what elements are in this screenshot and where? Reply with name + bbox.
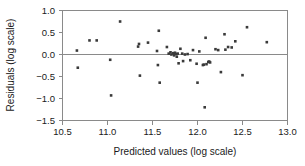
- data-point: [203, 106, 206, 109]
- data-point: [214, 48, 217, 51]
- data-point: [181, 52, 184, 55]
- data-point: [157, 64, 160, 67]
- chart-canvas: 10.5 11.0 11.5 12.0 12.5 13.0 1.0 0.5 0.…: [0, 0, 305, 166]
- data-point: [198, 50, 201, 53]
- data-point: [184, 53, 187, 56]
- x-tick-label: 10.5: [53, 126, 72, 137]
- x-tick-label: 11.5: [144, 126, 162, 137]
- data-point: [88, 39, 91, 42]
- y-tick-label: −1.0: [36, 93, 55, 104]
- x-tick-label: 11.0: [99, 126, 117, 137]
- data-point: [234, 40, 237, 43]
- y-tick-label: −0.5: [36, 71, 55, 82]
- data-point: [204, 36, 207, 39]
- data-point: [139, 74, 142, 77]
- scatter-plot-figure: 10.5 11.0 11.5 12.0 12.5 13.0 1.0 0.5 0.…: [0, 0, 305, 166]
- data-point: [77, 66, 80, 69]
- y-tick-label: 0.5: [42, 27, 55, 38]
- x-tick-label: 12.5: [233, 126, 252, 137]
- data-point: [224, 48, 227, 51]
- data-point: [266, 41, 269, 44]
- x-tick-label: 13.0: [278, 126, 297, 137]
- data-point: [241, 74, 244, 77]
- data-point: [246, 26, 249, 29]
- data-point: [176, 52, 179, 55]
- data-point: [195, 62, 198, 65]
- data-point: [203, 63, 206, 66]
- data-point: [147, 41, 150, 44]
- data-point: [76, 49, 79, 52]
- y-tick-label: 0.0: [42, 49, 55, 60]
- data-point: [209, 61, 212, 64]
- data-point: [156, 50, 159, 53]
- data-point: [189, 59, 192, 62]
- data-point: [158, 81, 161, 84]
- data-point: [217, 49, 220, 52]
- data-point: [179, 47, 182, 50]
- data-point: [192, 49, 195, 52]
- data-point: [177, 62, 180, 65]
- data-point: [220, 71, 223, 74]
- y-tick-label: −1.5: [36, 115, 55, 126]
- y-tick-label: 1.0: [42, 5, 55, 16]
- data-point: [110, 94, 113, 97]
- plot-background: [0, 0, 305, 166]
- data-point: [227, 46, 230, 49]
- y-axis-title: Residuals (log scale): [5, 19, 16, 112]
- data-point: [186, 53, 189, 56]
- data-point: [223, 33, 226, 36]
- data-point: [196, 81, 199, 84]
- data-point: [119, 20, 122, 23]
- data-point: [138, 43, 141, 46]
- data-point: [166, 46, 169, 49]
- x-tick-label: 12.0: [188, 126, 207, 137]
- data-point: [230, 46, 233, 49]
- x-axis-title: Predicted values (log scale): [114, 146, 237, 157]
- data-point: [182, 60, 185, 63]
- data-point: [95, 39, 98, 42]
- data-point: [176, 55, 179, 58]
- data-point: [137, 45, 140, 48]
- data-point: [158, 29, 161, 32]
- data-point: [109, 58, 112, 61]
